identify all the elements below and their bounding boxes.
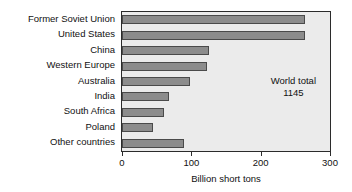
bar [122,77,190,86]
bar [122,108,164,117]
category-label: Former Soviet Union [28,14,115,24]
bar [122,139,184,148]
x-axis-tick-label: 100 [183,157,199,168]
category-label: China [90,45,115,55]
bar [122,15,305,24]
category-label: India [94,91,115,101]
bar [122,31,305,40]
x-axis-tick-label: 300 [322,157,338,168]
world-total-label: World total [271,75,316,87]
x-axis-tick-mark [122,152,123,156]
bar [122,62,207,71]
x-axis: 0100200300 [121,152,331,192]
x-axis-tick-mark [191,152,192,156]
category-label: United States [58,29,115,39]
category-label: Australia [78,76,115,86]
category-label: Other countries [50,137,115,147]
x-axis-tick-mark [330,152,331,156]
world-total-value: 1145 [271,87,316,99]
plot-area: World total 1145 [121,11,331,152]
x-axis-title: Billion short tons [121,173,331,184]
category-label: Western Europe [47,60,115,70]
category-label: South Africa [64,106,115,116]
bar [122,92,169,101]
world-total-annotation: World total 1145 [271,75,316,98]
category-label: Poland [85,122,115,132]
bar [122,123,153,132]
x-axis-tick-label: 0 [119,157,124,168]
bar [122,46,209,55]
bar-chart: Former Soviet UnionUnited StatesChinaWes… [0,0,352,192]
y-axis-category-labels: Former Soviet UnionUnited StatesChinaWes… [0,11,118,152]
x-axis-tick-label: 200 [253,157,269,168]
x-axis-tick-mark [261,152,262,156]
